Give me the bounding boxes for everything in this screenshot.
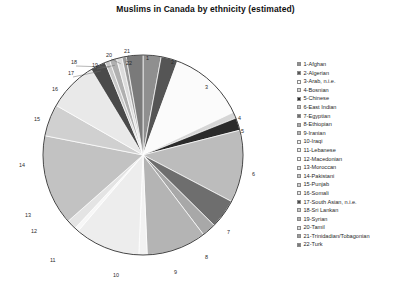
legend-swatch-icon [297,140,301,144]
legend-item[interactable]: 5-Chinese [297,94,411,103]
legend-item-label: 5-Chinese [304,94,330,103]
legend-swatch-icon [297,208,301,212]
legend-item-label: 4-Bosnian [304,86,329,95]
pie-slice-number-label: 5 [241,128,244,134]
pie-chart-figure: Muslims in Canada by ethnicity (estimate… [0,0,411,295]
legend-item[interactable]: 4-Bosnian [297,86,411,95]
legend-item[interactable]: 11-Lebanese [297,146,411,155]
pie-slice-number-label: 18 [71,59,77,65]
legend-item[interactable]: 1-Afghan [297,60,411,69]
pie-slice-number-label: 12 [31,228,37,234]
legend-swatch-icon [297,88,301,92]
legend-swatch-icon [297,226,301,230]
legend-item[interactable]: 3-Arab, n.i.e. [297,77,411,86]
legend-item[interactable]: 10-Iraqi [297,137,411,146]
pie-slice-number-label: 7 [227,229,230,235]
legend-item-label: 9-Iranian [304,129,326,138]
legend-swatch-icon [297,71,301,75]
legend-swatch-icon [297,174,301,178]
legend-item[interactable]: 20-Tamil [297,223,411,232]
legend-item-label: 16-Somali [304,189,329,198]
pie-slice-number-label: 9 [174,269,177,275]
pie-slice-number-label: 4 [238,115,241,121]
legend-item-label: 21-Trinidadian/Tobagonian [304,232,370,241]
legend-item-label: 13-Moroccan [304,163,337,172]
legend-swatch-icon [297,148,301,152]
pie-slice-number-label: 6 [252,171,255,177]
legend-item[interactable]: 17-South Asian, n.i.e. [297,198,411,207]
legend-item[interactable]: 13-Moroccan [297,163,411,172]
pie-slice-number-label: 1 [146,55,149,61]
legend-item-label: 3-Arab, n.i.e. [304,77,336,86]
legend-swatch-icon [297,183,301,187]
legend-item-label: 1-Afghan [304,60,327,69]
legend-item[interactable]: 21-Trinidadian/Tobagonian [297,232,411,241]
legend-swatch-icon [297,157,301,161]
legend-swatch-icon [297,234,301,238]
legend-item-label: 17-South Asian, n.i.e. [304,198,357,207]
pie-slice-number-label: 17 [68,70,74,76]
pie-slice-number-label: 21 [124,48,130,54]
legend-item-label: 7-Egyptian [304,112,331,121]
legend-swatch-icon [297,243,301,247]
legend-item-label: 19-Syrian [304,215,328,224]
pie-slice-number-label: 14 [19,162,25,168]
legend-item[interactable]: 7-Egyptian [297,112,411,121]
pie-slice-number-label: 10 [113,272,119,278]
pie-slice-number-label: 22 [126,60,132,66]
legend-swatch-icon [297,62,301,66]
pie-slice-number-label: 2 [171,59,174,65]
pie-slice-number-label: 16 [52,86,58,92]
legend-item[interactable]: 18-Sri Lankan [297,206,411,215]
legend-item-label: 12-Macedonian [304,155,343,164]
pie-slice-number-label: 13 [25,212,31,218]
pie-slice-number-label: 19 [92,62,98,68]
legend-item[interactable]: 22-Turk [297,240,411,249]
legend-item-label: 11-Lebanese [304,146,336,155]
chart-title: Muslims in Canada by ethnicity (estimate… [0,4,411,14]
legend-item-label: 14-Pakistani [304,172,335,181]
pie-slice-number-label: 3 [205,84,208,90]
legend-item-label: 6-East Indian [304,103,337,112]
legend-swatch-icon [297,166,301,170]
legend-swatch-icon [297,105,301,109]
legend-item-label: 2-Algerian [304,69,330,78]
legend-swatch-icon [297,97,301,101]
legend-item-label: 20-Tamil [304,223,325,232]
legend-swatch-icon [297,217,301,221]
legend-item-label: 15-Punjab [304,180,330,189]
pie-plot-area: 12345678910111213141516171819202122 [0,16,295,295]
legend-item-label: 18-Sri Lankan [304,206,339,215]
legend-item[interactable]: 16-Somali [297,189,411,198]
pie-slice-number-label: 8 [205,254,208,260]
legend-swatch-icon [297,191,301,195]
pie-slice-number-label: 20 [106,52,112,58]
legend-swatch-icon [297,114,301,118]
legend-item[interactable]: 14-Pakistani [297,172,411,181]
legend-swatch-icon [297,80,301,84]
chart-legend: 1-Afghan2-Algerian3-Arab, n.i.e.4-Bosnia… [297,60,411,249]
legend-swatch-icon [297,123,301,127]
legend-item[interactable]: 12-Macedonian [297,155,411,164]
pie-slice-number-label: 15 [34,116,40,122]
legend-item[interactable]: 9-Iranian [297,129,411,138]
pie-slice-number-label: 11 [50,257,56,263]
legend-item[interactable]: 6-East Indian [297,103,411,112]
legend-swatch-icon [297,200,301,204]
legend-item[interactable]: 2-Algerian [297,69,411,78]
legend-item[interactable]: 15-Punjab [297,180,411,189]
legend-item-label: 8-Ethiopian [304,120,332,129]
legend-item-label: 10-Iraqi [304,137,323,146]
legend-item[interactable]: 19-Syrian [297,215,411,224]
legend-swatch-icon [297,131,301,135]
pie-slices-group [43,55,243,255]
legend-item-label: 22-Turk [304,240,323,249]
legend-item[interactable]: 8-Ethiopian [297,120,411,129]
